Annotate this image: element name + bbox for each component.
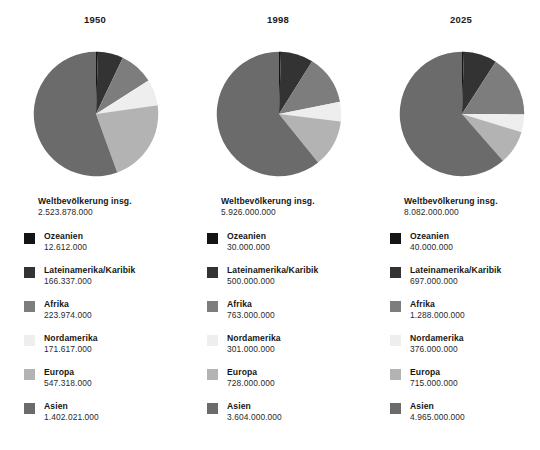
legend-text: Ozeanien40.000.000 bbox=[410, 231, 540, 253]
legend-item: Afrika223.974.000 bbox=[24, 299, 189, 333]
total-label: Weltbevölkerung insg. bbox=[221, 196, 366, 207]
legend-region-value: 1.402.021.000 bbox=[44, 412, 189, 423]
legend-region-name: Afrika bbox=[44, 299, 189, 310]
legend-text: Lateinamerika/Karibik166.337.000 bbox=[44, 265, 189, 287]
legend-swatch-icon bbox=[207, 267, 218, 278]
legend-region-value: 166.337.000 bbox=[44, 276, 189, 287]
pie-svg bbox=[399, 51, 525, 177]
legend-region-value: 1.288.000.000 bbox=[410, 310, 540, 321]
legend-item: Ozeanien12.612.000 bbox=[24, 231, 189, 265]
legend-region-name: Nordamerika bbox=[44, 333, 189, 344]
legend-item: Lateinamerika/Karibik500.000.000 bbox=[207, 265, 372, 299]
population-pie-chart-figure: 1950 Weltbevölkerung insg. 2.523.878.000… bbox=[0, 0, 540, 450]
legend-region-value: 697.000.000 bbox=[410, 276, 540, 287]
legend-item: Asien3.604.000.000 bbox=[207, 401, 372, 435]
legend-text: Nordamerika301.000.000 bbox=[227, 333, 372, 355]
legend-item: Asien1.402.021.000 bbox=[24, 401, 189, 435]
legend-region-value: 728.000.000 bbox=[227, 378, 372, 389]
legend-region-name: Nordamerika bbox=[227, 333, 372, 344]
legend-region-name: Lateinamerika/Karibik bbox=[227, 265, 372, 276]
legend-region-value: 301.000.000 bbox=[227, 344, 372, 355]
legend-swatch-icon bbox=[390, 301, 401, 312]
legend-text: Afrika763.000.000 bbox=[227, 299, 372, 321]
legend-swatch-icon bbox=[24, 301, 35, 312]
legend-item: Nordamerika171.617.000 bbox=[24, 333, 189, 367]
legend-region-value: 4.965.000.000 bbox=[410, 412, 540, 423]
legend-swatch-icon bbox=[390, 335, 401, 346]
legend-text: Asien4.965.000.000 bbox=[410, 401, 540, 423]
legend-text: Europa728.000.000 bbox=[227, 367, 372, 389]
legend-region-value: 12.612.000 bbox=[44, 242, 189, 253]
column-year-title: 2025 bbox=[371, 14, 540, 25]
legend-swatch-icon bbox=[390, 369, 401, 380]
total-value: 8.082.000.000 bbox=[404, 207, 540, 218]
pie-chart-2025 bbox=[399, 51, 525, 177]
legend-text: Afrika223.974.000 bbox=[44, 299, 189, 321]
legend-swatch-icon bbox=[207, 369, 218, 380]
legend-swatch-icon bbox=[24, 403, 35, 414]
legend-item: Afrika1.288.000.000 bbox=[390, 299, 540, 333]
legend-region-value: 171.617.000 bbox=[44, 344, 189, 355]
total-label: Weltbevölkerung insg. bbox=[404, 196, 540, 207]
legend-text: Ozeanien12.612.000 bbox=[44, 231, 189, 253]
legend-item: Asien4.965.000.000 bbox=[390, 401, 540, 435]
legend-region-name: Ozeanien bbox=[44, 231, 189, 242]
legend-swatch-icon bbox=[390, 267, 401, 278]
world-population-total: Weltbevölkerung insg. 8.082.000.000 bbox=[404, 196, 540, 218]
legend-item: Nordamerika376.000.000 bbox=[390, 333, 540, 367]
legend-swatch-icon bbox=[24, 267, 35, 278]
chart-column-2025: 2025 Weltbevölkerung insg. 8.082.000.000… bbox=[371, 0, 540, 450]
column-year-title: 1998 bbox=[188, 14, 368, 25]
legend-swatch-icon bbox=[207, 301, 218, 312]
legend-item: Europa715.000.000 bbox=[390, 367, 540, 401]
legend-region-value: 763.000.000 bbox=[227, 310, 372, 321]
legend-region-value: 547.318.000 bbox=[44, 378, 189, 389]
legend-text: Nordamerika171.617.000 bbox=[44, 333, 189, 355]
legend-text: Lateinamerika/Karibik500.000.000 bbox=[227, 265, 372, 287]
pie-chart-1998 bbox=[216, 51, 342, 177]
legend-swatch-icon bbox=[24, 233, 35, 244]
legend-text: Afrika1.288.000.000 bbox=[410, 299, 540, 321]
legend-1998: Ozeanien30.000.000Lateinamerika/Karibik5… bbox=[207, 231, 372, 435]
legend-text: Asien1.402.021.000 bbox=[44, 401, 189, 423]
legend-region-name: Asien bbox=[44, 401, 189, 412]
legend-swatch-icon bbox=[207, 335, 218, 346]
legend-region-name: Afrika bbox=[410, 299, 540, 310]
pie-svg bbox=[33, 51, 159, 177]
legend-text: Nordamerika376.000.000 bbox=[410, 333, 540, 355]
legend-region-value: 40.000.000 bbox=[410, 242, 540, 253]
pie-chart-1950 bbox=[33, 51, 159, 177]
legend-swatch-icon bbox=[24, 335, 35, 346]
legend-swatch-icon bbox=[24, 369, 35, 380]
chart-column-1950: 1950 Weltbevölkerung insg. 2.523.878.000… bbox=[5, 0, 185, 450]
legend-text: Lateinamerika/Karibik697.000.000 bbox=[410, 265, 540, 287]
legend-item: Europa547.318.000 bbox=[24, 367, 189, 401]
legend-2025: Ozeanien40.000.000Lateinamerika/Karibik6… bbox=[390, 231, 540, 435]
legend-region-value: 376.000.000 bbox=[410, 344, 540, 355]
world-population-total: Weltbevölkerung insg. 2.523.878.000 bbox=[38, 196, 183, 218]
legend-region-name: Europa bbox=[227, 367, 372, 378]
legend-1950: Ozeanien12.612.000Lateinamerika/Karibik1… bbox=[24, 231, 189, 435]
legend-region-name: Europa bbox=[410, 367, 540, 378]
legend-swatch-icon bbox=[390, 403, 401, 414]
legend-region-name: Lateinamerika/Karibik bbox=[410, 265, 540, 276]
world-population-total: Weltbevölkerung insg. 5.926.000.000 bbox=[221, 196, 366, 218]
legend-region-name: Lateinamerika/Karibik bbox=[44, 265, 189, 276]
legend-item: Europa728.000.000 bbox=[207, 367, 372, 401]
legend-region-name: Asien bbox=[410, 401, 540, 412]
legend-region-name: Ozeanien bbox=[410, 231, 540, 242]
legend-item: Ozeanien40.000.000 bbox=[390, 231, 540, 265]
legend-item: Lateinamerika/Karibik166.337.000 bbox=[24, 265, 189, 299]
legend-region-name: Ozeanien bbox=[227, 231, 372, 242]
legend-region-value: 500.000.000 bbox=[227, 276, 372, 287]
legend-region-value: 715.000.000 bbox=[410, 378, 540, 389]
chart-column-1998: 1998 Weltbevölkerung insg. 5.926.000.000… bbox=[188, 0, 368, 450]
pie-svg bbox=[216, 51, 342, 177]
legend-item: Nordamerika301.000.000 bbox=[207, 333, 372, 367]
legend-item: Afrika763.000.000 bbox=[207, 299, 372, 333]
legend-text: Asien3.604.000.000 bbox=[227, 401, 372, 423]
legend-region-value: 3.604.000.000 bbox=[227, 412, 372, 423]
legend-region-name: Nordamerika bbox=[410, 333, 540, 344]
legend-region-value: 30.000.000 bbox=[227, 242, 372, 253]
legend-swatch-icon bbox=[207, 403, 218, 414]
